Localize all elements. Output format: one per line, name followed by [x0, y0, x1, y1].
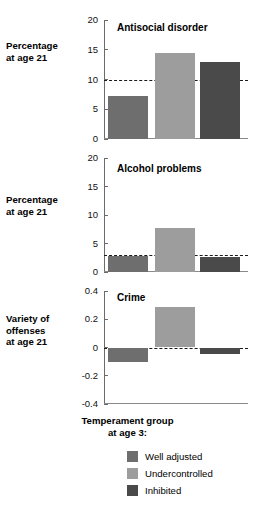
y-axis-label-line-1: Percentage [6, 40, 58, 51]
bar-undercontrolled [155, 307, 195, 347]
x-axis-line [104, 403, 248, 405]
bar-well-adjusted [108, 348, 148, 362]
y-tick-label: -0.2 [82, 369, 98, 382]
bar-undercontrolled [155, 228, 195, 272]
y-tick-label: 0 [93, 265, 98, 278]
legend-swatch-icon [127, 485, 138, 496]
panel-title-crime: Crime [117, 292, 145, 303]
legend-label: Inhibited [145, 485, 181, 496]
y-axis-label-line-1: Percentage [6, 194, 58, 205]
y-axis-label-percentage: Percentage at age 21 [6, 194, 72, 217]
y-tick-mark [104, 49, 108, 50]
bar-undercontrolled [155, 53, 195, 139]
bar-well-adjusted [108, 256, 148, 272]
y-tick-mark [104, 20, 108, 21]
y-tick-mark [104, 404, 108, 405]
panel-title-alcohol: Alcohol problems [117, 163, 201, 174]
y-tick-label: 20 [87, 151, 98, 164]
bar-inhibited [200, 348, 240, 354]
y-tick-label: 10 [87, 73, 98, 86]
y-tick-label: 15 [87, 43, 98, 56]
legend-swatch-icon [127, 468, 138, 479]
y-axis-label-percentage: Percentage at age 21 [6, 40, 72, 63]
y-tick-mark [104, 375, 108, 376]
panel-alcohol-problems: Percentage at age 21 0 5 10 15 20 [0, 150, 255, 290]
y-tick-label: 0 [93, 132, 98, 145]
figure-antisocial-alcohol-crime: Percentage at age 21 0 5 10 15 20 [0, 0, 255, 513]
legend-item-undercontrolled: Undercontrolled [127, 465, 255, 482]
y-tick-label: 5 [93, 102, 98, 115]
legend-title-line-2: at age 3: [108, 427, 147, 438]
y-tick-label: 20 [87, 13, 98, 26]
y-tick-label: 5 [93, 237, 98, 250]
y-tick-mark [104, 291, 108, 292]
y-tick-mark [104, 243, 108, 244]
y-tick-label: 0.2 [85, 312, 98, 325]
y-axis-label-line-2: at age 21 [6, 52, 47, 63]
y-tick-mark [104, 319, 108, 320]
y-tick-mark [104, 215, 108, 216]
y-tick-label: 0.4 [85, 284, 98, 297]
legend: Temperament group at age 3: Well adjuste… [0, 415, 255, 499]
bar-well-adjusted [108, 96, 148, 139]
y-tick-label: 0 [93, 341, 98, 354]
legend-label: Undercontrolled [145, 468, 213, 479]
y-tick-label: -0.4 [82, 397, 98, 410]
y-axis-label-line-2: at age 21 [6, 206, 47, 217]
panel-crime: Variety of offenses at age 21 -0.4 -0.2 … [0, 285, 255, 415]
plot-area-alcohol: 0 5 10 15 20 [104, 158, 248, 272]
panel-antisocial-disorder: Percentage at age 21 0 5 10 15 20 [0, 0, 255, 150]
y-axis-label-line-1: Variety of [6, 313, 49, 324]
y-axis-label-variety: Variety of offenses at age 21 [6, 313, 72, 348]
bar-inhibited [200, 62, 240, 139]
y-tick-label: 10 [87, 208, 98, 221]
bar-inhibited [200, 257, 240, 272]
legend-item-inhibited: Inhibited [127, 482, 255, 499]
legend-title-line-1: Temperament group [81, 415, 173, 426]
legend-label: Well adjusted [145, 451, 202, 462]
y-tick-mark [104, 186, 108, 187]
plot-area-antisocial: 0 5 10 15 20 [104, 20, 248, 139]
legend-items: Well adjusted Undercontrolled Inhibited [0, 448, 255, 499]
legend-item-well-adjusted: Well adjusted [127, 448, 255, 465]
legend-title: Temperament group at age 3: [38, 415, 218, 439]
legend-swatch-icon [127, 451, 138, 462]
panel-title-antisocial: Antisocial disorder [117, 22, 208, 33]
y-axis-label-line-2: offenses [6, 325, 45, 336]
y-tick-label: 15 [87, 180, 98, 193]
plot-area-crime: -0.4 -0.2 0 0.2 0.4 [104, 291, 248, 404]
y-axis-label-line-3: at age 21 [6, 336, 47, 347]
y-tick-mark [104, 158, 108, 159]
